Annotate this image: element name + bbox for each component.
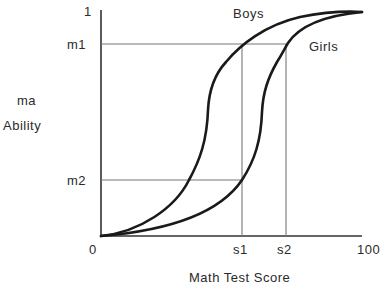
x-tick-0: 0 bbox=[89, 242, 97, 257]
y-axis-title-line1: ma bbox=[17, 93, 36, 108]
x-tick-s2: s2 bbox=[277, 242, 292, 257]
y-tick-m1: m1 bbox=[67, 37, 86, 52]
x-axis-title: Math Test Score bbox=[189, 270, 290, 285]
y-axis-title-line2: Ability bbox=[3, 118, 41, 133]
legend-boys: Boys bbox=[233, 6, 264, 21]
legend-girls: Girls bbox=[309, 39, 338, 54]
y-tick-m2: m2 bbox=[67, 173, 86, 188]
x-tick-s1: s1 bbox=[233, 242, 248, 257]
x-tick-100: 100 bbox=[357, 242, 380, 257]
chart: 1 m1 m2 ma Ability 0 s1 s2 100 Math Test… bbox=[0, 0, 385, 290]
y-tick-1: 1 bbox=[84, 4, 92, 19]
